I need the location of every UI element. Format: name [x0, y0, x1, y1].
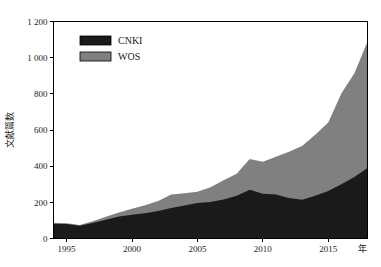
x-axis-unit-text: 年	[358, 243, 367, 254]
x-tick-label: 2000	[123, 244, 142, 254]
y-tick-label: 800	[34, 89, 48, 99]
y-tick-label: 1 200	[27, 17, 48, 27]
x-tick-label: 2005	[188, 244, 207, 254]
y-axis-title: 文献篇数	[4, 112, 15, 148]
x-axis-unit: 年	[358, 243, 367, 254]
y-tick-label: 400	[34, 161, 48, 171]
legend-swatch-cnki	[80, 36, 111, 45]
chart-svg: 02004006008001 0001 200 1995200020052010…	[0, 0, 381, 267]
x-tick-label: 1995	[58, 244, 77, 254]
legend-label-cnki: CNKI	[118, 35, 142, 46]
y-tick-label: 200	[34, 198, 48, 208]
legend-label-wos: WOS	[118, 51, 140, 62]
y-tick-label: 600	[34, 125, 48, 135]
x-tick-label: 2015	[319, 244, 338, 254]
legend-swatch-wos	[80, 52, 111, 61]
stacked-area-chart: 02004006008001 0001 200 1995200020052010…	[0, 0, 381, 267]
y-axis-title-text: 文献篇数	[4, 112, 15, 148]
y-tick-label: 1 000	[27, 53, 48, 63]
x-tick-label: 2010	[254, 244, 273, 254]
y-tick-label: 0	[43, 234, 48, 244]
